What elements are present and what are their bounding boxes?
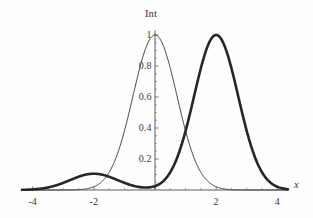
y-tick-label: 0.2 [139,154,152,164]
x-tick-label: 2 [196,197,236,207]
x-tick-label: -2 [74,197,114,207]
axes-group [22,30,288,190]
y-axis-title: Int [145,9,157,20]
y-axis-major-ticks [155,35,159,159]
x-axis-title: x [294,180,299,191]
y-tick-label: 0.6 [139,92,152,102]
y-tick-label: 1 [146,30,151,40]
y-tick-label: 0.8 [139,61,152,71]
chart-figure: Int x 0.20.40.60.81 -4-224 [0,0,313,218]
y-tick-label: 0.4 [139,123,152,133]
x-tick-label: -4 [13,197,53,207]
x-tick-label: 4 [257,197,297,207]
plot-canvas [0,0,313,218]
